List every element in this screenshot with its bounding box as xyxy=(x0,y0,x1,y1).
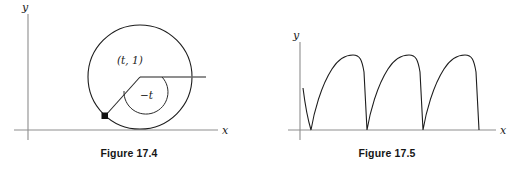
y-axis-label: y xyxy=(292,29,300,42)
center-radius-line xyxy=(105,77,140,116)
figure-17-4-caption: Figure 17.4 xyxy=(0,147,258,159)
figure-17-5-caption: Figure 17.5 xyxy=(258,147,516,159)
figure-17-5-panel: y x Figure 17.5 xyxy=(258,0,516,170)
angle-label: −t xyxy=(140,89,154,101)
center-point-label: (t, 1) xyxy=(117,54,143,66)
y-axis-label: y xyxy=(21,1,29,14)
figure-17-4-panel: y x (t, 1) −t Figure 17.4 xyxy=(0,0,258,170)
figure-17-4-drawing: y x (t, 1) −t xyxy=(0,0,258,145)
figure-17-5-drawing: y x xyxy=(258,0,516,145)
x-axis-label: x xyxy=(222,124,229,137)
traced-point-marker xyxy=(102,113,109,120)
x-axis-label: x xyxy=(500,124,507,137)
cycloid-curve xyxy=(303,55,479,130)
figure-page: y x (t, 1) −t Figure 17.4 y x Figure 17.… xyxy=(0,0,516,170)
